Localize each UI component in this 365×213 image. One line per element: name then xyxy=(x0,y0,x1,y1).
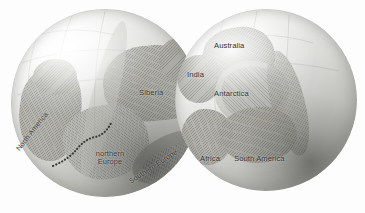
right-hemisphere-globe xyxy=(175,9,357,191)
left-hemisphere-globe xyxy=(11,9,199,197)
globe-pair-figure: Siberia North America northern Europe So… xyxy=(0,0,365,213)
sphere-rim-right xyxy=(175,9,357,191)
sphere-rim-left xyxy=(11,9,199,197)
